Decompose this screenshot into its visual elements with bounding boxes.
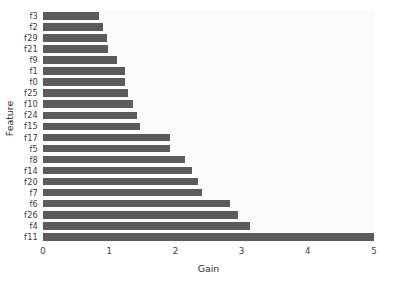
bar-f26 bbox=[43, 211, 238, 219]
bar-row bbox=[43, 133, 374, 144]
bar-row bbox=[43, 188, 374, 199]
y-tick-label-f21: f21 bbox=[24, 44, 38, 55]
bar-row bbox=[43, 33, 374, 44]
plot-area bbox=[43, 11, 374, 243]
y-tick-label-f7: f7 bbox=[30, 188, 39, 199]
bar-row bbox=[43, 155, 374, 166]
bar-f21 bbox=[43, 45, 108, 53]
gain-bar-chart-figure: f3f2f29f21f9f1f0f25f10f24f15f17f5f8f14f2… bbox=[0, 0, 401, 285]
bar-f7 bbox=[43, 189, 202, 197]
bar-row bbox=[43, 177, 374, 188]
bar-row bbox=[43, 121, 374, 132]
bar-f5 bbox=[43, 145, 170, 153]
bar-f20 bbox=[43, 178, 198, 186]
y-tick-label-f11: f11 bbox=[24, 232, 38, 243]
x-tick-label-4: 4 bbox=[305, 246, 310, 256]
y-tick-label-f1: f1 bbox=[30, 66, 39, 77]
bar-f6 bbox=[43, 200, 230, 208]
bar-row bbox=[43, 166, 374, 177]
bar-row bbox=[43, 99, 374, 110]
y-tick-label-f10: f10 bbox=[24, 99, 38, 110]
bar-f4 bbox=[43, 222, 250, 230]
bar-row bbox=[43, 110, 374, 121]
bar-f25 bbox=[43, 89, 128, 97]
bar-row bbox=[43, 11, 374, 22]
y-axis-title: Feature bbox=[4, 84, 15, 154]
y-tick-label-f20: f20 bbox=[24, 177, 38, 188]
y-tick-label-f8: f8 bbox=[30, 155, 39, 166]
bar-row bbox=[43, 22, 374, 33]
y-tick-label-f17: f17 bbox=[24, 133, 38, 144]
bar-f8 bbox=[43, 156, 185, 164]
bar-row bbox=[43, 88, 374, 99]
bar-f29 bbox=[43, 34, 107, 42]
bar-row bbox=[43, 199, 374, 210]
x-tick-label-5: 5 bbox=[371, 246, 376, 256]
x-tick-label-0: 0 bbox=[40, 246, 45, 256]
y-tick-label-f2: f2 bbox=[30, 22, 39, 33]
bar-row bbox=[43, 221, 374, 232]
bar-f10 bbox=[43, 100, 133, 108]
y-tick-label-f5: f5 bbox=[30, 144, 39, 155]
y-tick-label-f14: f14 bbox=[24, 166, 38, 177]
y-tick-label-f9: f9 bbox=[30, 55, 39, 66]
bar-f1 bbox=[43, 67, 125, 75]
bar-row bbox=[43, 77, 374, 88]
bar-f9 bbox=[43, 56, 117, 64]
bar-row bbox=[43, 210, 374, 221]
y-tick-label-f29: f29 bbox=[24, 33, 38, 44]
y-tick-label-f4: f4 bbox=[30, 221, 39, 232]
y-tick-label-f25: f25 bbox=[24, 88, 38, 99]
x-tick-label-3: 3 bbox=[239, 246, 244, 256]
x-axis-tick-labels: 012345 bbox=[43, 246, 374, 260]
y-tick-label-f26: f26 bbox=[24, 210, 38, 221]
bar-f14 bbox=[43, 167, 192, 175]
y-tick-label-f6: f6 bbox=[30, 199, 39, 210]
y-tick-label-f15: f15 bbox=[24, 121, 38, 132]
bars-layer bbox=[43, 11, 374, 243]
bar-f11 bbox=[43, 233, 374, 241]
bar-f0 bbox=[43, 78, 125, 86]
bar-row bbox=[43, 44, 374, 55]
bar-row bbox=[43, 55, 374, 66]
bar-f24 bbox=[43, 112, 137, 120]
bar-f2 bbox=[43, 23, 103, 31]
bar-f17 bbox=[43, 134, 170, 142]
x-tick-label-1: 1 bbox=[106, 246, 111, 256]
bar-row bbox=[43, 144, 374, 155]
bar-f3 bbox=[43, 12, 99, 20]
x-axis-title: Gain bbox=[43, 263, 374, 274]
y-tick-label-f3: f3 bbox=[30, 11, 39, 22]
bar-f15 bbox=[43, 123, 140, 131]
x-tick-label-2: 2 bbox=[173, 246, 178, 256]
y-tick-label-f0: f0 bbox=[30, 77, 39, 88]
bar-row bbox=[43, 66, 374, 77]
bar-row bbox=[43, 232, 374, 243]
y-tick-label-f24: f24 bbox=[24, 110, 38, 121]
